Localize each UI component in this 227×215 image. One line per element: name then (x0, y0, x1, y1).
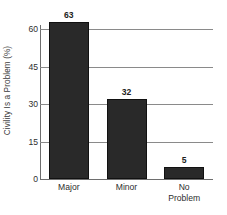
x-axis-category-label-line: Minor (116, 182, 138, 192)
y-axis-tick-label: 0 (16, 174, 38, 184)
y-axis-tick-labels: 604530150 (14, 0, 38, 215)
x-axis-category-label-line: Problem (155, 193, 213, 204)
bars-layer: 63325 (40, 22, 213, 179)
y-axis-title-text: Civility Is a Problem (%) (4, 45, 13, 134)
bar (107, 99, 147, 179)
bar-chart: Civility Is a Problem (%) 604530150 6332… (0, 0, 227, 215)
plot-area: 63325 (40, 22, 213, 179)
y-axis-tick-label: 60 (16, 24, 38, 34)
x-axis-category-labels: MajorMinorNo Problem (40, 182, 213, 215)
x-axis-category-label: Major (40, 182, 98, 193)
axis-baseline (40, 179, 213, 180)
bar (164, 167, 204, 179)
x-axis-category-label-line: No (179, 182, 190, 192)
bar-value-label: 32 (107, 87, 147, 97)
x-axis-category-label: No Problem (155, 182, 213, 203)
y-axis-tick-label: 15 (16, 137, 38, 147)
y-axis-tick-label: 30 (16, 99, 38, 109)
bar-value-label: 63 (49, 10, 89, 20)
x-axis-category-label-line: Major (58, 182, 80, 192)
x-axis-category-label: Minor (98, 182, 156, 193)
bar-value-label: 5 (164, 155, 204, 165)
bar (49, 22, 89, 179)
y-axis-tick-label: 45 (16, 62, 38, 72)
